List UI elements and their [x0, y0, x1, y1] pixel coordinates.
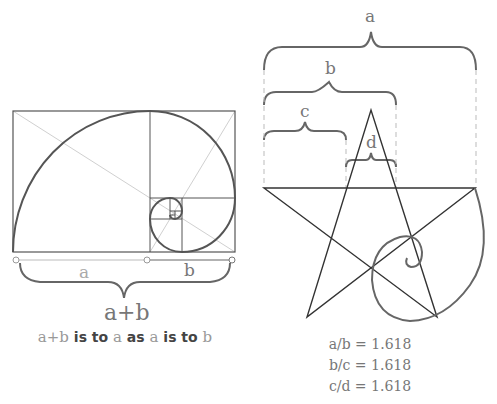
- golden-rectangle: [13, 111, 235, 252]
- brace-c-label: c: [300, 101, 310, 121]
- caption: a+b is to a as a is to b: [0, 328, 250, 346]
- caption-as: as: [122, 329, 150, 345]
- caption-a-1: a: [113, 328, 122, 346]
- brace-d-label: d: [366, 132, 377, 152]
- brace-a-label: a: [365, 6, 375, 26]
- segment-a-label: a: [79, 262, 89, 282]
- ratio-a-b: a/b = 1.618: [300, 334, 440, 355]
- segment-b-label: b: [184, 260, 195, 280]
- caption-b: b: [203, 328, 213, 346]
- measure-line: [13, 257, 235, 263]
- caption-is-to-2: is to: [158, 329, 202, 345]
- ratio-b-c: b/c = 1.618: [300, 355, 440, 376]
- ratios: a/b = 1.618 b/c = 1.618 c/d = 1.618: [300, 334, 440, 397]
- guide-dashes: [264, 70, 476, 188]
- caption-is-to-1: is to: [69, 329, 113, 345]
- brace-b-label: b: [325, 58, 336, 78]
- total-label: a+b: [104, 300, 150, 325]
- ratio-c-d: c/d = 1.618: [300, 376, 440, 397]
- brace-a-plus-b: [20, 263, 230, 298]
- caption-a-plus-b: a+b: [38, 328, 69, 346]
